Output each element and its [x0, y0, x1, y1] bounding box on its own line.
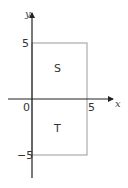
origin-label: 0: [23, 101, 30, 114]
region-s-label: S: [54, 62, 61, 75]
y-axis-label: y: [24, 8, 31, 19]
coordinate-diagram: y x 5 −5 0 5 S T: [0, 0, 128, 188]
region-t-label: T: [53, 122, 61, 135]
y-tick-top-label: 5: [22, 37, 29, 50]
x-axis-label: x: [115, 98, 121, 109]
y-tick-bottom-label: −5: [17, 149, 33, 162]
x-tick-label: 5: [88, 101, 95, 114]
